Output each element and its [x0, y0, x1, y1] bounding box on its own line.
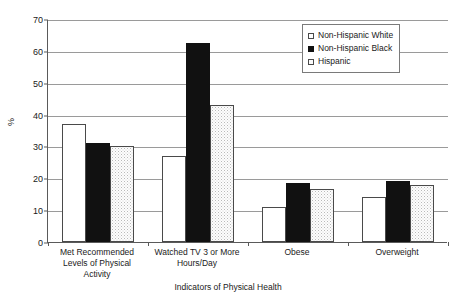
bar [386, 181, 410, 242]
y-tick-mark [44, 115, 48, 116]
x-category-label: Watched TV 3 or MoreHours/Day [147, 247, 247, 269]
bar-chart-figure: % 010203040506070 Indicators of Physical… [0, 0, 456, 302]
x-tick-mark [348, 242, 349, 246]
legend-item[interactable]: Non-Hispanic Black [308, 42, 393, 55]
bar [410, 185, 434, 242]
x-axis-label: Indicators of Physical Health [0, 282, 456, 292]
legend-label: Hispanic [318, 57, 351, 66]
x-category-label-line: Hours/Day [147, 258, 247, 269]
gridline [48, 20, 448, 21]
gridline [48, 84, 448, 85]
y-tick-label: 70 [33, 16, 43, 25]
x-category-label-line: Watched TV 3 or More [147, 247, 247, 258]
bar [210, 105, 234, 242]
bar [86, 143, 110, 242]
bar [362, 197, 386, 242]
x-tick-mark [148, 242, 149, 246]
x-category-label-line: Activity [47, 269, 147, 280]
y-tick-mark [44, 179, 48, 180]
x-category-label-line: Obese [247, 247, 347, 258]
bar [186, 43, 210, 242]
y-tick-mark [44, 147, 48, 148]
x-category-label: Met RecommendedLevels of PhysicalActivit… [47, 247, 147, 280]
bar [262, 207, 286, 242]
legend-swatch-non-hispanic-black [308, 46, 314, 52]
x-category-label-line: Levels of Physical [47, 258, 147, 269]
x-category-label-line: Overweight [347, 247, 447, 258]
y-axis-label: % [6, 118, 16, 126]
y-tick-mark [44, 83, 48, 84]
legend-label: Non-Hispanic Black [318, 44, 392, 53]
legend-swatch-non-hispanic-white [308, 33, 314, 39]
x-tick-mark [48, 242, 49, 246]
y-tick-label: 30 [33, 143, 43, 152]
y-tick-label: 0 [38, 239, 43, 248]
bar [310, 189, 334, 242]
bar [162, 156, 186, 242]
y-tick-mark [44, 211, 48, 212]
legend-swatch-hispanic [308, 59, 314, 65]
bar [62, 124, 86, 242]
y-tick-label: 40 [33, 111, 43, 120]
legend-label: Non-Hispanic White [318, 31, 393, 40]
x-tick-mark [448, 242, 449, 246]
chart-legend: Non-Hispanic White Non-Hispanic Black Hi… [302, 24, 400, 73]
y-tick-label: 60 [33, 47, 43, 56]
x-category-label: Overweight [347, 247, 447, 258]
bar [110, 146, 134, 242]
y-tick-mark [44, 51, 48, 52]
x-tick-mark [248, 242, 249, 246]
y-tick-label: 10 [33, 207, 43, 216]
bar [286, 183, 310, 242]
legend-item[interactable]: Non-Hispanic White [308, 29, 393, 42]
legend-item[interactable]: Hispanic [308, 55, 393, 68]
gridline [48, 116, 448, 117]
y-tick-mark [44, 20, 48, 21]
x-category-label-line: Met Recommended [47, 247, 147, 258]
y-tick-label: 20 [33, 175, 43, 184]
x-category-label: Obese [247, 247, 347, 258]
y-tick-label: 50 [33, 79, 43, 88]
